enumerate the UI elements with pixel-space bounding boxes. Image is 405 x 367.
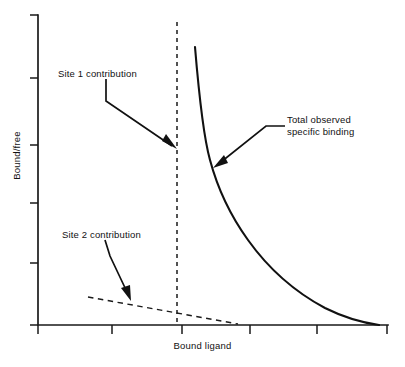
total-leader [213,126,285,168]
annotation-total-binding-label: Total observed specific binding [287,114,354,138]
chart-canvas [0,0,405,367]
annotation-site1-label: Site 1 contribution [58,68,137,80]
site2-leader [105,240,131,301]
x-axis-ticks [38,325,387,334]
total-leader-line [221,126,285,162]
site1-leader [106,79,177,149]
axis-group [30,15,388,334]
binding-curve-figure: Site 1 contribution Site 2 contribution … [0,0,405,367]
site2-arrowhead [121,285,131,301]
y-axis-label: Bound/free [11,116,22,196]
y-axis-ticks [30,15,38,325]
total-binding-curve [195,47,379,325]
site1-leader-line [106,79,172,146]
total-arrowhead [213,155,228,168]
annotation-site2-label: Site 2 contribution [62,229,141,241]
site2-leader-line [105,240,127,292]
site2-contribution-dashed-line [88,297,238,324]
x-axis-label: Bound ligand [0,340,405,351]
site1-arrowhead [162,134,177,149]
